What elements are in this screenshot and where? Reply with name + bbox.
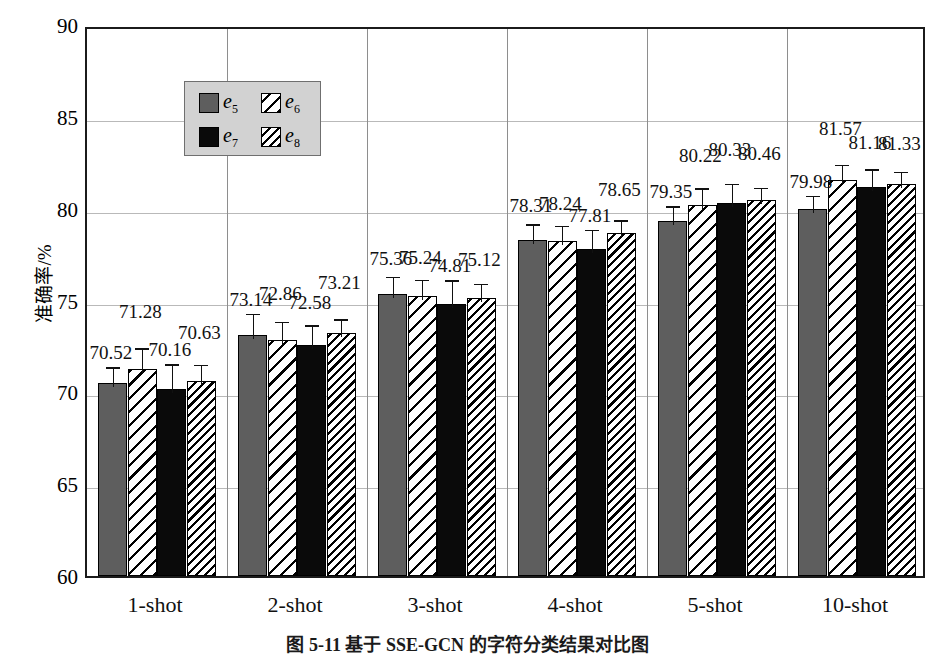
error-bar-whisker: [282, 322, 283, 344]
bar-2-shot-e5: [238, 335, 267, 576]
bar-1-shot-e6: [128, 369, 157, 576]
error-bar-cap: [415, 280, 429, 282]
error-bar-whisker: [621, 220, 622, 237]
error-bar-cap: [194, 365, 208, 367]
legend-entry-e7[interactable]: e7: [199, 125, 238, 149]
legend-swatch-e8: [261, 127, 281, 147]
error-bar-whisker: [481, 284, 482, 302]
data-label-1-shot-e5: 70.52: [82, 343, 140, 362]
y-axis-tick-label: 70: [34, 383, 78, 404]
bar-10-shot-e7: [857, 187, 886, 576]
bar-3-shot-e5: [378, 294, 407, 576]
bar-3-shot-e8: [467, 298, 496, 576]
bar-2-shot-e6: [268, 340, 297, 576]
error-bar-whisker: [201, 365, 202, 385]
data-label-1-shot-e7: 70.16: [141, 340, 199, 359]
y-axis-tick-label: 60: [34, 567, 78, 588]
y-axis-tick-label: 75: [34, 292, 78, 313]
error-bar-cap: [806, 196, 820, 198]
data-label-4-shot-e7: 77.81: [561, 206, 619, 225]
data-label-10-shot-e8: 81.33: [870, 134, 928, 153]
legend-entry-e5[interactable]: e5: [199, 91, 238, 115]
data-label-2-shot-e7: 72.58: [281, 293, 339, 312]
error-bar-cap: [585, 230, 599, 232]
error-bar-whisker: [872, 169, 873, 191]
data-label-4-shot-e8: 78.65: [590, 180, 648, 199]
error-bar-whisker: [901, 172, 902, 189]
bar-10-shot-e8: [887, 184, 916, 576]
data-label-10-shot-e5: 79.98: [782, 172, 840, 191]
legend-swatch-e5: [199, 93, 219, 113]
bar-5-shot-e7: [717, 203, 746, 576]
data-label-2-shot-e8: 73.21: [310, 273, 368, 292]
error-bar-cap: [894, 172, 908, 174]
y-axis-tick-label: 85: [34, 108, 78, 129]
error-bar-whisker: [533, 224, 534, 243]
error-bar-whisker: [393, 277, 394, 298]
legend-entry-e8[interactable]: e8: [261, 125, 300, 149]
gridline-vertical: [367, 29, 368, 576]
error-bar-whisker: [312, 325, 313, 349]
y-axis-tick-label: 90: [34, 16, 78, 37]
error-bar-whisker: [592, 230, 593, 253]
bar-1-shot-e7: [157, 389, 186, 576]
error-bar-cap: [835, 165, 849, 167]
data-label-1-shot-e6: 71.28: [111, 302, 169, 321]
legend-label-e7: e7: [223, 125, 238, 149]
bar-2-shot-e7: [297, 345, 326, 576]
bar-2-shot-e8: [327, 333, 356, 576]
legend-entry-e6[interactable]: e6: [261, 91, 300, 115]
error-bar-whisker: [341, 319, 342, 337]
data-label-1-shot-e8: 70.63: [170, 323, 228, 342]
bar-4-shot-e6: [548, 241, 577, 576]
error-bar-whisker: [842, 165, 843, 184]
error-bar-cap: [865, 169, 879, 171]
error-bar-whisker: [673, 206, 674, 224]
error-bar-cap: [246, 314, 260, 316]
bar-4-shot-e8: [607, 233, 636, 576]
error-bar-whisker: [813, 196, 814, 213]
error-bar-whisker: [452, 280, 453, 308]
gridline-vertical: [507, 29, 508, 576]
error-bar-cap: [275, 322, 289, 324]
legend-swatch-e6: [261, 93, 281, 113]
legend-label-e5: e5: [223, 91, 238, 115]
figure-caption: 图 5-11 基于 SSE-GCN 的字符分类结果对比图: [0, 630, 935, 656]
error-bar-whisker: [702, 188, 703, 208]
bar-5-shot-e6: [688, 205, 717, 576]
bar-10-shot-e6: [828, 180, 857, 576]
error-bar-cap: [474, 284, 488, 286]
y-axis-tick-label: 65: [34, 475, 78, 496]
error-bar-whisker: [172, 364, 173, 393]
error-bar-cap: [106, 367, 120, 369]
data-label-5-shot-e8: 80.46: [730, 144, 788, 163]
error-bar-whisker: [732, 184, 733, 207]
data-label-3-shot-e8: 75.12: [450, 250, 508, 269]
x-axis-tick-label-2-shot: 2-shot: [225, 592, 365, 618]
error-bar-cap: [754, 188, 768, 190]
error-bar-cap: [305, 325, 319, 327]
error-bar-cap: [526, 224, 540, 226]
legend[interactable]: e5e6e7e8: [184, 81, 321, 156]
error-bar-whisker: [761, 188, 762, 205]
plot-area: e5e6e7e8: [85, 27, 925, 578]
gridline-vertical: [787, 29, 788, 576]
y-axis-tick-label: 80: [34, 200, 78, 221]
error-bar-whisker: [422, 280, 423, 300]
bar-1-shot-e5: [98, 383, 127, 576]
error-bar-cap: [666, 206, 680, 208]
error-bar-cap: [725, 184, 739, 186]
bar-10-shot-e5: [798, 209, 827, 576]
error-bar-whisker: [562, 226, 563, 245]
error-bar-cap: [445, 280, 459, 282]
legend-label-e8: e8: [285, 125, 300, 149]
error-bar-cap: [555, 226, 569, 228]
bar-5-shot-e5: [658, 221, 687, 576]
gridline-vertical: [647, 29, 648, 576]
x-axis-tick-label-1-shot: 1-shot: [85, 592, 225, 618]
error-bar-whisker: [113, 367, 114, 386]
bar-1-shot-e8: [187, 381, 216, 576]
y-axis-tick-labels: 60657075808590: [20, 0, 78, 647]
bar-3-shot-e6: [408, 296, 437, 576]
